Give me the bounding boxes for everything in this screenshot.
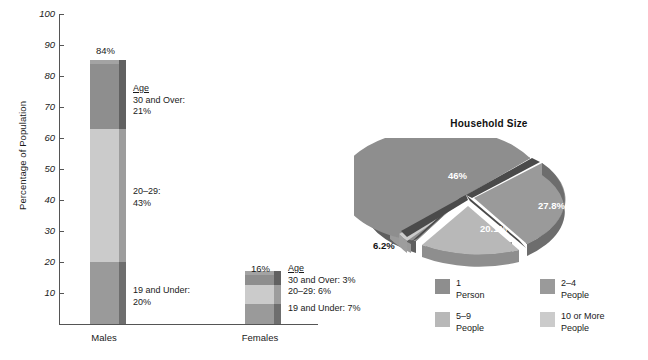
- annotation-males-20-29: 20–29: 43%: [133, 186, 161, 209]
- bar-side-30-and-over: [274, 271, 281, 285]
- household-size-pie-chart: Household Size: [330, 0, 648, 360]
- y-axis-title: Percentage of Population: [17, 46, 28, 266]
- annotation-males-19-under: 19 and Under: 20%: [133, 285, 190, 308]
- y-tick-label: 20: [29, 257, 55, 267]
- bar-side-19-and-under: [119, 262, 126, 324]
- legend-label-line2: People: [561, 323, 589, 333]
- legend-label-line1: 1: [456, 278, 461, 288]
- bar-side-30-and-over: [119, 60, 126, 129]
- annotation-males-19-under-value: 20%: [133, 297, 190, 309]
- x-axis-line: [59, 324, 318, 325]
- bar-segment-20-29[interactable]: [90, 129, 119, 262]
- legend-label-2-4-people: 2–4 People: [561, 278, 589, 301]
- y-tick-label: 40: [29, 195, 55, 205]
- y-tick-label: 50: [29, 164, 55, 174]
- annotation-males-20-29-label: 20–29:: [133, 186, 161, 198]
- population-by-age-bar-chart: Percentage of Population 100 90 80 70 60…: [0, 0, 330, 360]
- bar-value-label-males: 84%: [96, 45, 115, 56]
- y-tick-label: 70: [29, 102, 55, 112]
- legend-label-line2: People: [561, 290, 589, 300]
- legend-label-10-or-more-people: 10 or More People: [561, 311, 605, 334]
- bar-value-label-females: 16%: [251, 263, 270, 274]
- legend-swatch-2-4-people: [540, 279, 555, 294]
- y-tick-label: 90: [29, 40, 55, 50]
- annotation-males: Age 30 and Over: 21%: [133, 83, 185, 118]
- bar-segment-19-and-under[interactable]: [90, 262, 119, 324]
- legend-label-line1: 5–9: [456, 311, 471, 321]
- annotation-males-30-over-value: 21%: [133, 106, 185, 118]
- y-tick-label: 10: [29, 288, 55, 298]
- legend-label-5-9-people: 5–9 People: [456, 311, 484, 334]
- legend-label-line2: Person: [456, 290, 485, 300]
- y-tick-label: 60: [29, 133, 55, 143]
- legend-swatch-10-or-more-people: [540, 312, 555, 327]
- legend-item-5-9-people[interactable]: 5–9 People: [435, 311, 484, 334]
- annotation-males-age-header: Age: [133, 83, 185, 95]
- legend-item-1-person[interactable]: 1 Person: [435, 278, 485, 301]
- bar-segment-30-and-over[interactable]: [90, 64, 119, 129]
- bar-side-19-and-under: [274, 304, 281, 324]
- bar-segment-30-and-over[interactable]: [245, 275, 274, 285]
- bar-side-20-29: [119, 129, 126, 262]
- y-tick-label: 80: [29, 71, 55, 81]
- bar-side-20-29: [274, 285, 281, 304]
- legend-swatch-1-person: [435, 279, 450, 294]
- pie-label-5-9-people: 20.1%: [480, 223, 507, 234]
- annotation-males-19-under-label: 19 and Under:: [133, 285, 190, 297]
- pie-label-10-or-more-people: 6.2%: [373, 240, 395, 251]
- figure-canvas: Percentage of Population 100 90 80 70 60…: [0, 0, 648, 360]
- legend-label-line1: 10 or More: [561, 311, 605, 321]
- annotation-males-30-over-label: 30 and Over:: [133, 95, 185, 107]
- y-tick-label: 30: [29, 226, 55, 236]
- x-axis-label-males: Males: [74, 332, 134, 343]
- legend-label-line1: 2–4: [561, 278, 576, 288]
- pie-label-1-person: 46%: [448, 170, 467, 181]
- bar-segment-20-29[interactable]: [245, 285, 274, 304]
- legend-item-10-or-more-people[interactable]: 10 or More People: [540, 311, 605, 334]
- legend-label-1-person: 1 Person: [456, 278, 485, 301]
- pie-chart-title: Household Size: [330, 118, 648, 129]
- x-axis-label-females: Females: [228, 332, 292, 343]
- y-tick-label: 100: [29, 9, 55, 19]
- legend-swatch-5-9-people: [435, 312, 450, 327]
- legend-label-line2: People: [456, 323, 484, 333]
- bar-segment-19-and-under[interactable]: [245, 304, 274, 324]
- annotation-males-20-29-value: 43%: [133, 198, 161, 210]
- legend-item-2-4-people[interactable]: 2–4 People: [540, 278, 589, 301]
- pie-label-2-4-people: 27.8%: [538, 200, 565, 211]
